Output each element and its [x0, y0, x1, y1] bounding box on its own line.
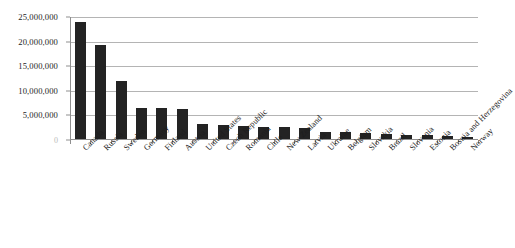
bar — [75, 22, 86, 139]
y-axis: 05,000,00010,000,00015,000,00020,000,000… — [0, 0, 66, 248]
y-axis-tick-label: 5,000,000 — [23, 110, 58, 120]
y-axis-tick-label: 25,000,000 — [18, 12, 58, 22]
bar — [95, 45, 106, 139]
bars-group — [70, 17, 478, 140]
y-axis-tick-label: 15,000,000 — [18, 61, 58, 71]
y-axis-tick-label: 20,000,000 — [18, 37, 58, 47]
plot-area — [70, 17, 478, 140]
x-axis-tick-mark — [70, 140, 71, 144]
y-axis-tick-label: 0 — [54, 136, 58, 145]
x-axis-labels: CanadaRussiaSwedenGermanyFinlandAustriaU… — [70, 146, 491, 248]
y-axis-tick-label: 10,000,000 — [18, 86, 58, 96]
